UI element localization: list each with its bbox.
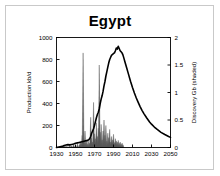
x-axis-tick-label: 1950 — [69, 150, 83, 157]
x-axis-tick-label: 2010 — [126, 150, 140, 157]
chart-figure: Egypt 0200400600800100000.511.5219301950… — [0, 0, 220, 176]
y-axis-title: Production kb/d — [26, 72, 32, 114]
y2-axis-tick-label: 2 — [175, 34, 179, 41]
y-axis-tick-label: 800 — [42, 56, 53, 63]
y-axis-tick-label: 1000 — [39, 34, 53, 41]
y2-axis-tick-label: 1 — [175, 89, 179, 96]
x-axis-tick-label: 2050 — [164, 150, 178, 157]
y-axis-tick-label: 200 — [42, 122, 53, 129]
y-axis-tick-label: 400 — [42, 100, 53, 107]
x-axis-tick-label: 1990 — [107, 150, 121, 157]
y2-axis-tick-label: 0.5 — [175, 116, 184, 123]
y-axis-tick-label: 600 — [42, 78, 53, 85]
x-axis-tick-label: 1930 — [50, 150, 64, 157]
chart-plot: 0200400600800100000.511.5219301950197019… — [0, 0, 220, 176]
y2-axis-title: Discovery Gb (shaded) — [191, 62, 197, 123]
x-axis-tick-label: 1970 — [88, 150, 102, 157]
y2-axis-tick-label: 1.5 — [175, 61, 184, 68]
x-axis-tick-label: 2030 — [145, 150, 159, 157]
